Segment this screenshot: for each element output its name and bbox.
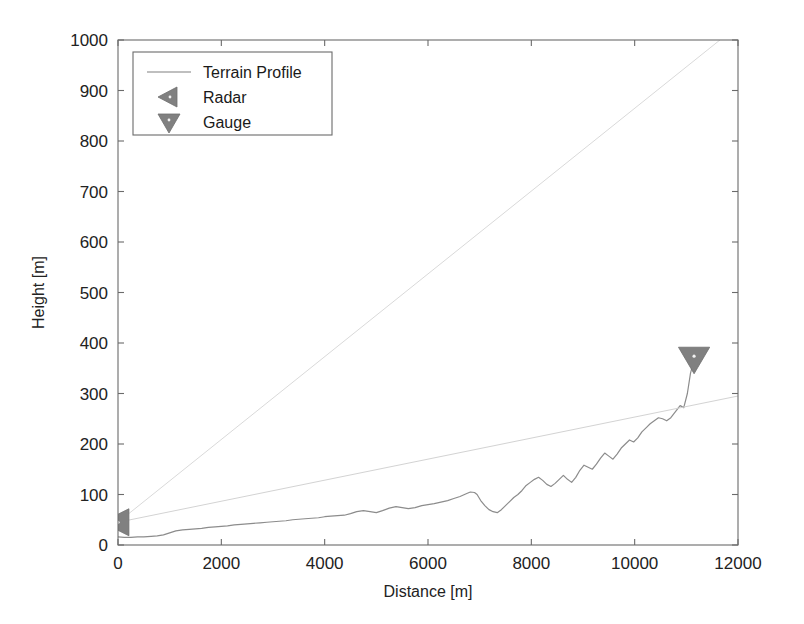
terrain-profile-chart: 0200040006000800010000120000100200300400… (0, 0, 804, 624)
y-tick-label: 1000 (70, 31, 108, 50)
y-tick-label: 100 (80, 486, 108, 505)
x-tick-label: 4000 (306, 554, 344, 573)
y-tick-label: 0 (99, 536, 108, 555)
x-tick-label: 6000 (409, 554, 447, 573)
y-tick-label: 700 (80, 183, 108, 202)
y-tick-label: 200 (80, 435, 108, 454)
chart-figure: 0200040006000800010000120000100200300400… (0, 0, 804, 624)
y-tick-label: 400 (80, 334, 108, 353)
x-tick-label: 8000 (512, 554, 550, 573)
y-axis-label: Height [m] (30, 256, 47, 329)
x-tick-label: 2000 (202, 554, 240, 573)
x-tick-label: 0 (113, 554, 122, 573)
legend-label: Terrain Profile (203, 64, 302, 81)
marker-radar (102, 509, 129, 536)
chart-legend: Terrain ProfileRadarGauge (133, 52, 332, 135)
y-tick-label: 600 (80, 233, 108, 252)
x-axis-label: Distance [m] (384, 583, 473, 600)
y-tick-label: 800 (80, 132, 108, 151)
legend-swatch-dot (168, 119, 171, 122)
legend-label: Radar (203, 89, 247, 106)
legend-item-radar[interactable]: Radar (158, 87, 247, 107)
marker-center-dot (692, 355, 695, 358)
x-tick-label: 12000 (714, 554, 761, 573)
marker-radar-glyph (102, 509, 129, 536)
y-tick-label: 300 (80, 385, 108, 404)
y-tick-label: 900 (80, 82, 108, 101)
y-tick-label: 500 (80, 284, 108, 303)
legend-swatch-dot (169, 96, 172, 99)
legend-label: Gauge (203, 114, 251, 131)
x-tick-label: 10000 (611, 554, 658, 573)
